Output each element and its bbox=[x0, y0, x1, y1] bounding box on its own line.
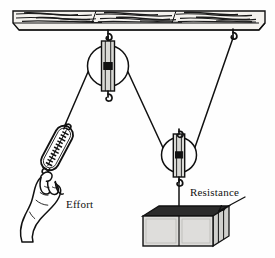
rope-effort-segment bbox=[64, 71, 89, 129]
rope-ceiling-to-movable bbox=[194, 38, 234, 152]
resistance-leader bbox=[219, 197, 245, 211]
fixed-pulley bbox=[88, 36, 129, 101]
fixed-pulley-hook bbox=[106, 91, 112, 101]
load-block bbox=[143, 206, 229, 246]
effort-label: Effort bbox=[66, 198, 93, 210]
spring-scale bbox=[38, 123, 76, 174]
load-block-front bbox=[143, 216, 213, 246]
rope-pulley-to-movable bbox=[128, 72, 165, 152]
resistance-label: Resistance bbox=[190, 186, 239, 198]
ceiling-hook-left bbox=[106, 30, 112, 40]
fixed-pulley-axle bbox=[104, 63, 112, 70]
pulley-system-illustration bbox=[0, 0, 275, 258]
pulley-diagram: Effort Resistance bbox=[0, 0, 275, 258]
movable-pulley-bottom-hook bbox=[177, 177, 183, 186]
ceiling-beam bbox=[13, 11, 265, 30]
hand bbox=[21, 172, 64, 242]
movable-pulley-axle bbox=[176, 152, 183, 158]
movable-pulley bbox=[162, 129, 197, 186]
